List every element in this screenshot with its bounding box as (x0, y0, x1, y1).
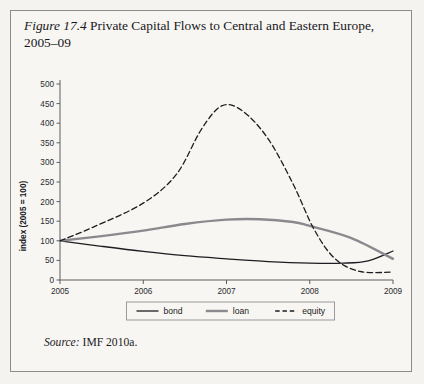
line-chart: 050100150200250300350400450500 200520062… (12, 66, 404, 328)
y-tick-label: 450 (40, 100, 54, 109)
y-tick-label: 250 (40, 178, 54, 187)
legend-label-bond: bond (164, 306, 183, 316)
y-tick-label: 300 (40, 158, 54, 167)
x-tick-label: 2006 (134, 287, 153, 296)
y-tick-label: 400 (40, 119, 54, 128)
chart-legend: bondloanequity (127, 302, 335, 320)
x-axis-ticks: 20052006200720082009 (51, 280, 403, 296)
series-line-bond (60, 241, 393, 264)
figure-caption: Figure 17.4 Private Capital Flows to Cen… (24, 18, 380, 51)
y-tick-label: 150 (40, 217, 54, 226)
y-axis-ticks: 050100150200250300350400450500 (40, 80, 60, 285)
x-tick-label: 2008 (301, 287, 320, 296)
chart-axes (60, 80, 393, 280)
y-tick-label: 500 (40, 80, 54, 89)
series-line-loan (60, 219, 393, 259)
x-tick-label: 2005 (51, 287, 70, 296)
y-tick-label: 100 (40, 237, 54, 246)
x-tick-label: 2007 (217, 287, 236, 296)
chart-container: 050100150200250300350400450500 200520062… (12, 66, 404, 328)
chart-series (60, 104, 393, 272)
legend-label-loan: loan (233, 306, 249, 316)
legend-label-equity: equity (302, 306, 326, 316)
y-tick-label: 350 (40, 139, 54, 148)
y-tick-label: 200 (40, 198, 54, 207)
source-text: IMF 2010a. (83, 336, 138, 349)
y-axis-title: index (2005 = 100) (19, 181, 28, 252)
source-label: Source: (44, 336, 80, 349)
figure-source: Source: IMF 2010a. (44, 336, 137, 349)
y-tick-label: 50 (45, 256, 55, 265)
figure-label: Figure 17.4 (24, 18, 87, 33)
y-tick-label: 0 (49, 276, 54, 285)
page-background: Figure 17.4 Private Capital Flows to Cen… (0, 0, 424, 384)
x-tick-label: 2009 (384, 287, 403, 296)
